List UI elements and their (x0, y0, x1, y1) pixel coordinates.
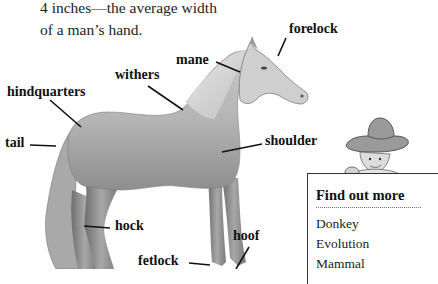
label-mane: mane (176, 52, 209, 68)
leader-tail (30, 145, 56, 146)
leader-forelock (278, 38, 286, 56)
leader-withers (148, 86, 183, 110)
label-forelock: forelock (289, 21, 338, 37)
leader-hindquarters (50, 100, 81, 127)
hat-icon (346, 118, 408, 152)
find-out-more-link-evolution[interactable]: Evolution (316, 236, 369, 252)
label-hoof: hoof (233, 228, 259, 244)
label-fetlock: fetlock (138, 253, 178, 269)
find-out-more-box: Find out more Donkey Evolution Mammal (307, 173, 438, 284)
leader-fetlock (189, 263, 210, 265)
horse-eye (261, 66, 267, 69)
label-shoulder: shoulder (265, 133, 317, 149)
horse-head (239, 42, 308, 104)
label-hock: hock (115, 218, 144, 234)
find-out-more-link-mammal[interactable]: Mammal (316, 256, 365, 272)
find-out-more-title: Find out more (316, 187, 421, 208)
horse-nostril (300, 94, 303, 97)
label-hindquarters: hindquarters (7, 84, 86, 100)
horse-front-leg-front (222, 178, 246, 266)
find-out-more-link-donkey[interactable]: Donkey (316, 216, 359, 232)
horse-front-leg-back (208, 178, 226, 266)
label-withers: withers (115, 67, 159, 83)
label-tail: tail (5, 135, 24, 151)
